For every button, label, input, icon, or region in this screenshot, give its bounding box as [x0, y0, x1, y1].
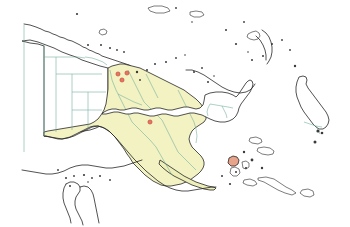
islet-small	[316, 129, 319, 132]
map-canvas	[0, 0, 350, 227]
islet-small	[294, 65, 296, 67]
occurrence-dot	[120, 78, 124, 82]
occurrence-dot	[116, 72, 120, 76]
islet-small	[321, 132, 324, 135]
map-container: Papua New Guinea distribution map New Gu…	[0, 0, 350, 227]
occurrence-dot	[125, 71, 129, 75]
occurrence-dot	[148, 120, 152, 124]
islet-small	[314, 141, 317, 144]
